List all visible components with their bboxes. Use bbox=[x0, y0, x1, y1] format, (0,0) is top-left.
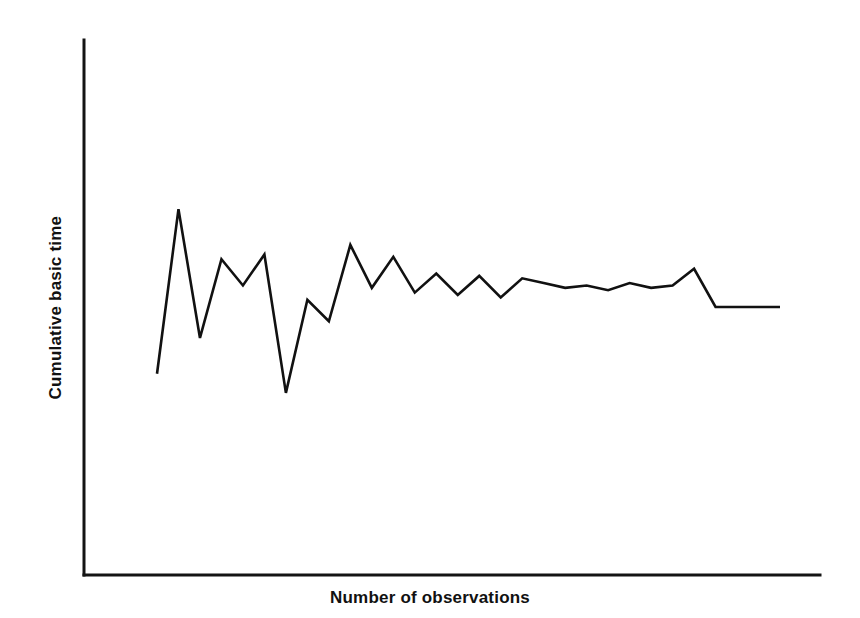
y-axis-label: Cumulative basic time bbox=[46, 216, 66, 400]
cumulative-basic-time-chart: Cumulative basic time Number of observat… bbox=[0, 0, 860, 618]
x-axis-label: Number of observations bbox=[0, 588, 860, 608]
data-series-line bbox=[157, 209, 780, 393]
plot-area bbox=[0, 0, 860, 618]
chart-page: Cumulative basic time Number of observat… bbox=[0, 0, 860, 618]
